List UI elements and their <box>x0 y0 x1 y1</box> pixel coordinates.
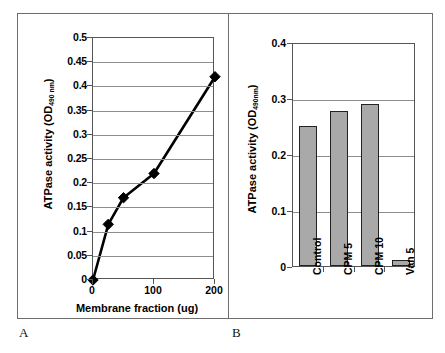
panel-a-gridline <box>93 232 213 233</box>
panel-a-y-tick-label: 0.4 <box>73 80 87 91</box>
panel-b-y-axis-title-subscript: 490nm <box>252 88 259 110</box>
panel-a-gridline <box>93 86 213 87</box>
panel-a-y-tick-mark <box>87 110 92 111</box>
panel-a-gridline <box>93 207 213 208</box>
panel-a-gridline <box>93 62 213 63</box>
panel-a-x-tick-label: 100 <box>133 285 173 296</box>
panel-a-x-axis-title: Membrane fraction (ug) <box>47 302 227 314</box>
panel-a-y-tick-mark <box>87 231 92 232</box>
panel-a-y-tick-label: 0.3 <box>73 129 87 140</box>
panel-b-bar-chart: ATPase activity (OD490nm) 00.10.20.30.4 … <box>228 13 433 319</box>
panel-a-y-tick-mark <box>87 134 92 135</box>
panel-b-y-tick-label: 0.4 <box>271 38 286 49</box>
panel-a-y-tick-label: 0.15 <box>67 201 87 212</box>
panel-b-x-tick-mark <box>384 267 385 272</box>
panel-b-y-axis-title: ATPase activity (OD490nm) <box>246 49 258 249</box>
panel-a-y-tick-mark <box>87 61 92 62</box>
panel-a-gridline <box>93 111 213 112</box>
panel-a-letter: A <box>19 326 28 339</box>
panel-a-y-tick-label: 0.2 <box>73 177 87 188</box>
panel-a-x-tick-mark <box>153 279 154 284</box>
panel-b-x-tick-mark <box>354 267 355 272</box>
panel-b-y-axis-title-main: ATPase activity (OD <box>246 110 258 214</box>
panel-a-y-tick-mark <box>87 158 92 159</box>
panel-a-gridline <box>93 135 213 136</box>
panel-b-y-tick-mark <box>287 211 292 212</box>
panel-a-x-tick-mark <box>214 279 215 284</box>
panel-a-y-axis-title: ATPase activity (OD490 nm) <box>42 44 54 244</box>
panel-b-category-label: Van 5 <box>405 248 416 275</box>
panel-b-plot-area <box>292 43 415 267</box>
panel-a-y-tick-label: 0.25 <box>67 153 87 164</box>
panel-b-y-tick-mark <box>287 155 292 156</box>
panel-a-y-axis-title-main: ATPase activity (OD <box>42 106 54 210</box>
panel-a-y-tick-label: 0.45 <box>67 56 87 67</box>
panel-b-x-tick-mark <box>323 267 324 272</box>
panel-a-data-point-marker <box>103 219 113 229</box>
panel-b-category-label: CPM 5 <box>343 243 354 275</box>
panel-a-y-tick-label: 0.5 <box>73 32 87 43</box>
figure-container: ATPase activity (OD490 nm) 00.050.10.150… <box>0 0 445 353</box>
panel-a-y-tick-label: 0.35 <box>67 105 87 116</box>
panel-a-plot-area <box>92 37 214 279</box>
panel-b-letter: B <box>232 326 241 339</box>
panel-b-category-label: CPM 10 <box>374 237 385 275</box>
panel-a-y-tick-mark <box>87 85 92 86</box>
panel-b-y-tick-mark <box>287 267 292 268</box>
panel-b-y-tick-mark <box>287 43 292 44</box>
panel-a-y-tick-mark <box>87 255 92 256</box>
panel-b-y-tick-label: 0.1 <box>271 206 286 217</box>
panel-a-line-chart: ATPase activity (OD490 nm) 00.050.10.150… <box>17 13 228 319</box>
panel-a-gridline <box>93 183 213 184</box>
panel-a-y-tick-label: 0.05 <box>67 250 87 261</box>
panel-a-y-tick-mark <box>87 182 92 183</box>
panel-b-y-tick-label: 0.2 <box>271 150 286 161</box>
panel-a-x-tick-label: 0 <box>72 285 112 296</box>
panel-a-y-axis-title-subscript: 490 nm <box>48 82 55 105</box>
panel-b-y-tick-label: 0 <box>280 262 286 273</box>
panel-a-y-tick-mark <box>87 37 92 38</box>
panel-b-y-tick-mark <box>287 99 292 100</box>
panel-a-gridline <box>93 256 213 257</box>
panel-a-gridline <box>93 159 213 160</box>
panel-a-y-tick-label: 0.1 <box>73 226 87 237</box>
panel-b-category-label: Control <box>312 238 323 275</box>
panel-a-x-tick-mark <box>92 279 93 284</box>
panel-b-gridline <box>293 100 414 101</box>
panel-a-y-tick-mark <box>87 206 92 207</box>
panel-b-y-tick-label: 0.3 <box>271 94 286 105</box>
